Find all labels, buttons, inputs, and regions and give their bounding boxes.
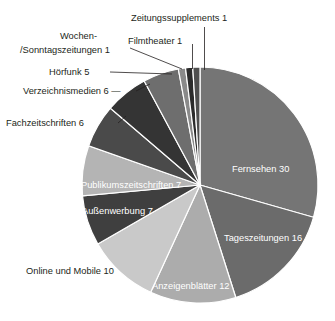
label-hoerfunk: Hörfunk 5 <box>49 67 89 77</box>
leader-line-wochenzeitungen <box>130 48 182 69</box>
label-filmtheater: Filmtheater 1 <box>128 36 182 46</box>
label-fachzeitschriften: Fachzeitschriften 6 <box>6 118 84 128</box>
label-publikumszeitschriften: Publikumszeitschriften 7 <box>81 180 181 190</box>
pie-chart-figure: Zeitungssupplements 1 Filmtheater 1 Woch… <box>0 0 335 321</box>
label-tageszeitungen: Tageszeitungen 16 <box>224 233 302 243</box>
label-anzeigenblaetter: Anzeigenblätter 12 <box>152 281 230 291</box>
label-wochenzeitungen-line1: Wochen- <box>60 31 97 41</box>
label-fernsehen: Fernsehen 30 <box>232 164 289 174</box>
label-wochenzeitungen-line2: /Sonntagszeitungen 1 <box>20 45 110 55</box>
label-online-und-mobile: Online und Mobile 10 <box>26 266 114 276</box>
label-verzeichnismedien: Verzeichnismedien 6 — <box>23 86 121 96</box>
label-zeitungssupplements: Zeitungssupplements 1 <box>131 13 227 23</box>
label-aussenwerbung: Außenwerbung 7 <box>82 206 153 216</box>
pie-chart-svg: Zeitungssupplements 1 Filmtheater 1 Woch… <box>0 0 335 321</box>
